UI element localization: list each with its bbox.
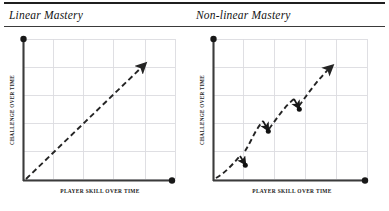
y-axis-terminal-dot [20, 36, 26, 42]
column-title-non-linear: Non-linear Mastery [196, 6, 291, 25]
panel-linear-mastery: CHALLENGE OVER TIME PLAYER SKILL OVER TI… [0, 30, 195, 208]
y-axis-terminal-dot [210, 36, 216, 42]
header-rule-top [4, 2, 385, 4]
drop-marker-3 [297, 107, 302, 112]
drop-marker-1 [243, 163, 248, 168]
panel-non-linear-mastery: CHALLENGE OVER TIME PLAYER SKILL OVER TI… [195, 30, 389, 208]
grid-lines [213, 39, 367, 179]
chart-linear-mastery: CHALLENGE OVER TIME PLAYER SKILL OVER TI… [0, 30, 195, 208]
x-axis-label-linear: PLAYER SKILL OVER TIME [60, 188, 139, 194]
drop-marker-2 [266, 129, 271, 134]
drop-arrow-3 [294, 99, 299, 107]
x-axis-terminal-dot [362, 177, 368, 183]
chart-non-linear-mastery: CHALLENGE OVER TIME PLAYER SKILL OVER TI… [195, 30, 389, 208]
mastery-curve-non-linear [216, 67, 331, 178]
y-axis-label-linear: CHALLENGE OVER TIME [9, 75, 15, 145]
x-axis-label-non-linear: PLAYER SKILL OVER TIME [252, 188, 331, 194]
header-row: Linear Mastery Non-linear Mastery [0, 6, 389, 25]
drop-arrow-2 [263, 121, 268, 129]
drop-markers [243, 107, 302, 168]
linear-mastery-svg: CHALLENGE OVER TIME PLAYER SKILL OVER TI… [0, 30, 195, 208]
y-axis-label-non-linear: CHALLENGE OVER TIME [199, 75, 205, 145]
mastery-curve-linear [26, 65, 144, 179]
x-axis-terminal-dot [169, 177, 175, 183]
non-linear-mastery-svg: CHALLENGE OVER TIME PLAYER SKILL OVER TI… [195, 30, 389, 208]
drop-arrow-1 [240, 156, 245, 163]
header-rule-bottom [4, 26, 385, 27]
column-title-linear: Linear Mastery [9, 6, 83, 25]
